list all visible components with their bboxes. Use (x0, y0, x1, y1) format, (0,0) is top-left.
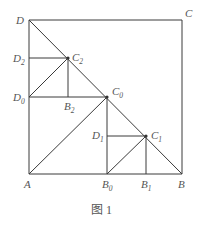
label-B2: B2 (64, 100, 75, 115)
label-D1: D1 (91, 129, 104, 144)
label-D2: D2 (12, 52, 25, 67)
label-A: A (23, 178, 31, 190)
label-C2: C2 (72, 51, 83, 66)
figure-caption: 图 1 (91, 203, 112, 217)
segment-B0C1 (107, 136, 146, 174)
geometry-figure: D C A B D2 C2 D0 B2 C0 D1 C1 B0 B1 图 1 (0, 0, 198, 230)
label-B0: B0 (102, 178, 113, 193)
label-C0: C0 (112, 85, 123, 100)
label-B: B (178, 178, 185, 190)
label-D0: D0 (12, 91, 25, 106)
point-C1-dot (144, 134, 147, 137)
label-C: C (185, 7, 193, 19)
point-C0-dot (105, 95, 108, 98)
label-D: D (15, 14, 24, 26)
label-B1: B1 (141, 178, 151, 193)
point-C2-dot (66, 56, 69, 59)
label-C1: C1 (151, 129, 162, 144)
segment-D0C2 (29, 58, 68, 97)
